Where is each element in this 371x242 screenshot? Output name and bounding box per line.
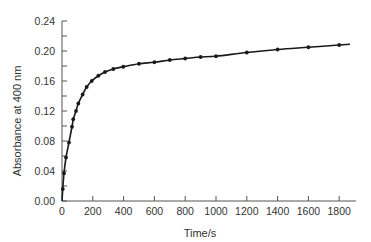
data-point xyxy=(71,117,75,121)
data-points xyxy=(61,43,341,191)
data-point xyxy=(96,74,100,78)
y-tick-label: 0.16 xyxy=(35,75,56,87)
data-point xyxy=(81,93,85,97)
x-tick-label: 1000 xyxy=(204,205,228,217)
x-tick-label: 600 xyxy=(146,205,164,217)
chart-canvas: 0200400600800100012001400160018000.000.0… xyxy=(0,0,371,242)
tick-labels: 0200400600800100012001400160018000.000.0… xyxy=(35,15,351,217)
y-tick-label: 0.24 xyxy=(35,15,56,27)
data-point xyxy=(276,48,280,52)
data-point xyxy=(90,79,94,83)
data-point xyxy=(337,43,341,47)
x-axis-label: Time/s xyxy=(184,227,217,239)
x-tick-label: 1600 xyxy=(297,205,321,217)
y-tick-label: 0.08 xyxy=(35,135,56,147)
y-tick-label: 0.12 xyxy=(35,105,56,117)
data-point xyxy=(61,187,65,191)
y-tick-label: 0.04 xyxy=(35,165,56,177)
data-point xyxy=(76,102,80,106)
x-tick-label: 200 xyxy=(84,205,102,217)
data-point xyxy=(64,156,68,160)
data-point xyxy=(183,57,187,61)
x-tick-label: 1400 xyxy=(266,205,290,217)
x-tick-label: 1800 xyxy=(328,205,352,217)
x-tick-label: 1200 xyxy=(235,205,259,217)
data-point xyxy=(70,125,74,129)
data-point xyxy=(214,54,218,58)
fitted-curve xyxy=(62,44,350,201)
data-point xyxy=(74,109,78,113)
x-tick-label: 400 xyxy=(115,205,133,217)
data-point xyxy=(307,45,311,49)
x-tick-label: 800 xyxy=(176,205,194,217)
x-tick-label: 0 xyxy=(59,205,65,217)
data-point xyxy=(153,60,157,64)
data-point xyxy=(245,51,249,55)
data-point xyxy=(137,62,141,66)
data-point xyxy=(67,141,71,145)
y-tick-label: 0.20 xyxy=(35,45,56,57)
data-point xyxy=(85,85,89,89)
axes xyxy=(62,21,356,201)
data-point xyxy=(111,67,115,71)
data-point xyxy=(168,58,172,62)
data-point xyxy=(199,55,203,59)
y-axis-label: Absorbance at 400 nm xyxy=(11,66,23,177)
y-tick-label: 0.00 xyxy=(35,195,56,207)
data-point xyxy=(121,65,125,69)
data-point xyxy=(103,70,107,74)
absorbance-time-chart: 0200400600800100012001400160018000.000.0… xyxy=(0,0,371,242)
data-point xyxy=(62,171,66,175)
